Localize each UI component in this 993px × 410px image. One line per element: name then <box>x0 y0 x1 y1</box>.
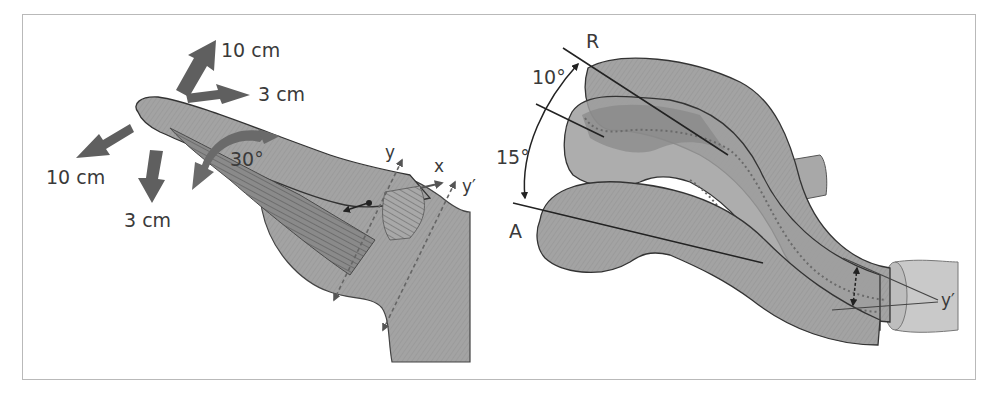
label-axis-y-prime: y′ <box>462 176 476 196</box>
arrow-right-icon <box>186 84 250 104</box>
figure-canvas: 10 cm 3 cm 10 cm 3 cm 30° y x y′ <box>0 0 993 410</box>
left-panel-scapula-clavicle: 10 cm 3 cm 10 cm 3 cm 30° y x y′ <box>46 39 476 362</box>
label-10deg: 10° <box>532 66 566 88</box>
label-rotation-30deg: 30° <box>230 148 264 170</box>
label-down-3cm: 3 cm <box>124 209 171 231</box>
arrow-left-down-icon <box>76 124 134 158</box>
label-left-down-10cm: 10 cm <box>46 166 105 188</box>
label-up-10cm: 10 cm <box>221 39 280 61</box>
right-panel-clavicle-rotation: R 10° 15° A y′ <box>496 30 958 345</box>
label-A: A <box>509 220 522 242</box>
label-axis-y-prime-right: y′ <box>941 290 955 310</box>
arrow-down-icon <box>138 150 165 203</box>
label-axis-x: x <box>434 156 444 176</box>
label-axis-y: y <box>385 142 395 162</box>
label-15deg: 15° <box>496 146 530 168</box>
label-R: R <box>586 30 599 52</box>
label-right-3cm: 3 cm <box>258 83 305 105</box>
arrow-up-icon <box>176 40 216 97</box>
